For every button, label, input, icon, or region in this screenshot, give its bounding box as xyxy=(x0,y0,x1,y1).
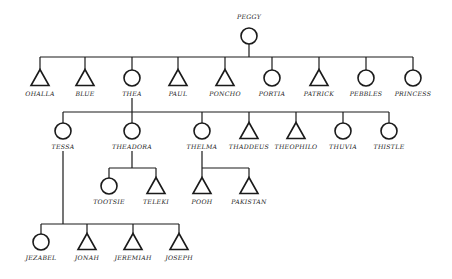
node-label: JEREMIAH xyxy=(112,254,152,262)
person-node-princess: PRINCESS xyxy=(394,70,432,97)
person-node-patrick: PATRICK xyxy=(303,70,334,98)
circle-female-icon xyxy=(194,123,210,139)
person-node-thea: THEA xyxy=(122,70,142,97)
triangle-male-icon xyxy=(124,234,142,250)
person-node-teleki: TELEKI xyxy=(143,178,169,206)
person-node-jeremiah: JEREMIAH xyxy=(112,234,152,263)
node-label: THEA xyxy=(122,90,142,97)
node-label: PEGGY xyxy=(236,13,262,20)
node-label: THEOPHILO xyxy=(275,143,318,150)
person-node-theophilo: THEOPHILO xyxy=(275,123,318,151)
node-label: PRINCESS xyxy=(394,90,432,97)
node-label: PATRICK xyxy=(303,90,334,97)
triangle-male-icon xyxy=(216,70,234,86)
node-label: JEZABEL xyxy=(23,254,56,262)
triangle-male-icon xyxy=(170,234,188,250)
node-label: THELMA xyxy=(187,143,218,150)
node-label: OHALLA xyxy=(25,90,55,97)
triangle-male-icon xyxy=(287,123,305,139)
circle-female-icon xyxy=(241,28,257,44)
triangle-male-icon xyxy=(169,70,187,86)
triangle-male-icon xyxy=(193,178,211,194)
person-node-blue: BLUE xyxy=(74,70,94,98)
node-label: THEADORA xyxy=(112,143,152,150)
person-node-pakistan: PAKISTAN xyxy=(230,178,267,206)
person-node-poncho: PONCHO xyxy=(208,70,241,98)
tree-nodes: PEGGY OHALLABLUETHEAPAULPONCHOPORTIAPATR… xyxy=(23,13,431,262)
person-node-tootsie: TOOTSIE xyxy=(93,178,125,205)
node-label: TESSA xyxy=(52,143,75,150)
circle-female-icon xyxy=(358,70,374,86)
node-label: PORTIA xyxy=(258,90,286,97)
node-label: PAKISTAN xyxy=(230,198,267,205)
person-node-thuvia: THUVIA xyxy=(329,123,357,150)
node-label: THISTLE xyxy=(373,143,404,150)
node-label: PONCHO xyxy=(208,90,241,97)
family-tree-diagram: PEGGY OHALLABLUETHEAPAULPONCHOPORTIAPATR… xyxy=(0,0,452,279)
node-label: PAUL xyxy=(168,90,188,97)
circle-female-icon xyxy=(264,70,280,86)
person-node-ohalla: OHALLA xyxy=(25,70,55,98)
triangle-male-icon xyxy=(147,178,165,194)
person-node-jezabel: JEZABEL xyxy=(23,234,56,262)
triangle-male-icon xyxy=(240,123,258,139)
person-node-tessa: TESSA xyxy=(52,123,75,150)
person-node-pooh: POOH xyxy=(191,178,213,206)
node-label: BLUE xyxy=(74,90,94,97)
person-node-pebbles: PEBBLES xyxy=(349,70,383,97)
person-node-theadora: THEADORA xyxy=(112,123,152,150)
node-label: TELEKI xyxy=(143,198,169,205)
circle-female-icon xyxy=(405,70,421,86)
circle-female-icon xyxy=(381,123,397,139)
node-label: THADDEUS xyxy=(229,143,269,150)
triangle-male-icon xyxy=(76,70,94,86)
triangle-male-icon xyxy=(310,70,328,86)
triangle-male-icon xyxy=(240,178,258,194)
node-label: JOSEPH xyxy=(163,254,193,262)
root-node: PEGGY xyxy=(236,13,262,44)
person-node-thistle: THISTLE xyxy=(373,123,404,150)
circle-female-icon xyxy=(33,234,49,250)
circle-female-icon xyxy=(101,178,117,194)
circle-female-icon xyxy=(124,123,140,139)
person-node-jonah: JONAH xyxy=(73,234,100,263)
node-label: JONAH xyxy=(73,254,100,262)
person-node-portia: PORTIA xyxy=(258,70,286,97)
person-node-thelma: THELMA xyxy=(187,123,218,150)
node-label: POOH xyxy=(191,198,213,205)
circle-female-icon xyxy=(55,123,71,139)
circle-female-icon xyxy=(124,70,140,86)
node-label: TOOTSIE xyxy=(93,198,125,205)
triangle-male-icon xyxy=(31,70,49,86)
triangle-male-icon xyxy=(78,234,96,250)
person-node-paul: PAUL xyxy=(168,70,188,98)
person-node-thaddeus: THADDEUS xyxy=(229,123,269,151)
node-label: PEBBLES xyxy=(349,90,383,97)
node-label: THUVIA xyxy=(329,143,357,150)
person-node-joseph: JOSEPH xyxy=(163,234,193,263)
circle-female-icon xyxy=(335,123,351,139)
